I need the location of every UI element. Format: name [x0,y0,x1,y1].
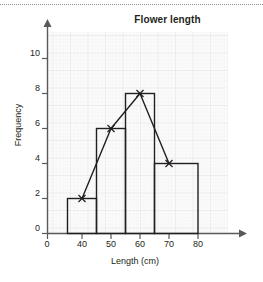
plot-grid [48,32,228,233]
x-axis-ticks [48,234,199,240]
y-axis-ticks [42,59,48,234]
chart-canvas [0,0,263,282]
figure-root: Flower length Frequency Length (cm) 10 8… [0,0,263,282]
